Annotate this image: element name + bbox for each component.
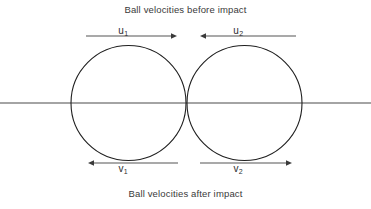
velocity-label-v1-symbol: v bbox=[119, 163, 124, 174]
velocity-label-u2-symbol: u bbox=[233, 25, 239, 36]
velocity-label-u1: u1 bbox=[101, 25, 145, 36]
velocity-label-v1: v1 bbox=[101, 163, 145, 174]
velocity-label-u2: u2 bbox=[216, 25, 260, 36]
velocity-label-v2: v2 bbox=[216, 163, 260, 174]
velocity-label-u1-subscript: 1 bbox=[124, 30, 128, 37]
velocity-label-v2-subscript: 2 bbox=[239, 168, 243, 175]
velocity-label-v2-symbol: v bbox=[234, 163, 239, 174]
diagram-canvas bbox=[0, 0, 371, 209]
velocity-label-u2-subscript: 2 bbox=[239, 30, 243, 37]
velocity-label-u1-symbol: u bbox=[118, 25, 124, 36]
velocity-label-v1-subscript: 1 bbox=[124, 168, 128, 175]
ball-collision-diagram: Ball velocities before impact u1 u2 v1 bbox=[0, 0, 371, 209]
caption-after-impact: Ball velocities after impact bbox=[0, 188, 371, 199]
